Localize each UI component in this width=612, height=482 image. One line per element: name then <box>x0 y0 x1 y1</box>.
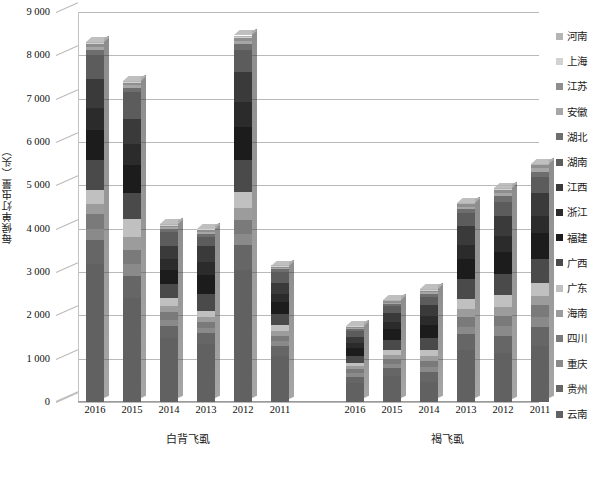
bar-segment[interactable] <box>531 317 549 327</box>
bar-segment[interactable] <box>86 214 104 229</box>
bar-segment[interactable] <box>383 376 401 402</box>
bar-segment[interactable] <box>494 202 512 217</box>
bar-segment[interactable] <box>160 284 178 298</box>
bar-segment[interactable] <box>457 299 475 309</box>
bar-segment[interactable] <box>234 192 252 208</box>
bar-segment[interactable] <box>123 119 141 145</box>
bar-segment[interactable] <box>123 264 141 275</box>
bar-segment[interactable] <box>494 216 512 236</box>
legend-item[interactable]: 福建 <box>556 230 587 246</box>
legend-item[interactable]: 上海 <box>556 53 587 69</box>
bar-segment[interactable] <box>457 279 475 299</box>
bar-segment[interactable] <box>494 295 512 307</box>
bar-segment[interactable] <box>197 275 215 293</box>
bar-segment[interactable] <box>457 226 475 244</box>
bar-segment[interactable] <box>197 262 215 275</box>
legend-item[interactable]: 四川 <box>556 330 587 346</box>
bar-segment[interactable] <box>457 334 475 350</box>
bar-segment[interactable] <box>271 283 289 293</box>
bar-segment[interactable] <box>420 305 438 316</box>
legend-item[interactable]: 安徽 <box>556 104 587 120</box>
bar-segment[interactable] <box>234 270 252 402</box>
bar-segment[interactable] <box>234 102 252 126</box>
bar-segment[interactable] <box>234 208 252 220</box>
bar-segment[interactable] <box>123 165 141 193</box>
bar-segment[interactable] <box>123 250 141 264</box>
bar-segment[interactable] <box>457 309 475 317</box>
legend-item[interactable]: 江西 <box>556 179 587 195</box>
bar-segment[interactable] <box>346 348 364 355</box>
bar-segment[interactable] <box>234 220 252 234</box>
bar-segment[interactable] <box>457 259 475 279</box>
bar-segment[interactable] <box>494 252 512 274</box>
legend-item[interactable]: 广西 <box>556 255 587 271</box>
bar-segment[interactable] <box>383 313 401 322</box>
bar-segment[interactable] <box>197 246 215 262</box>
bar-segment[interactable] <box>123 298 141 402</box>
bar-segment[interactable] <box>86 160 104 190</box>
bar-segment[interactable] <box>271 272 289 283</box>
bar-segment[interactable] <box>494 353 512 402</box>
bar-segment[interactable] <box>197 333 215 344</box>
legend-item[interactable]: 江苏 <box>556 78 587 94</box>
bar-segment[interactable] <box>123 92 141 119</box>
bar-segment[interactable] <box>234 72 252 102</box>
bar-segment[interactable] <box>271 302 289 314</box>
legend-item[interactable]: 云南 <box>556 406 587 422</box>
bar-segment[interactable] <box>86 130 104 160</box>
bar-segment[interactable] <box>234 234 252 245</box>
bar-segment[interactable] <box>494 316 512 327</box>
bar-segment[interactable] <box>86 229 104 240</box>
bar-segment[interactable] <box>86 79 104 107</box>
bar-segment[interactable] <box>420 338 438 350</box>
bar-segment[interactable] <box>420 325 438 338</box>
bar-segment[interactable] <box>457 213 475 226</box>
bar-segment[interactable] <box>86 108 104 131</box>
bar-segment[interactable] <box>160 326 178 338</box>
bar-segment[interactable] <box>494 326 512 335</box>
bar-segment[interactable] <box>494 336 512 353</box>
bar-segment[interactable] <box>420 382 438 402</box>
bar-segment[interactable] <box>123 276 141 299</box>
legend-item[interactable]: 浙江 <box>556 204 587 220</box>
bar-segment[interactable] <box>160 312 178 319</box>
bar-segment[interactable] <box>494 274 512 295</box>
bar-segment[interactable] <box>234 50 252 72</box>
bar-segment[interactable] <box>86 190 104 204</box>
legend-item[interactable]: 湖北 <box>556 129 587 145</box>
bar-segment[interactable] <box>383 368 401 376</box>
legend-item[interactable]: 河南 <box>556 28 587 44</box>
bar-segment[interactable] <box>123 193 141 219</box>
bar-segment[interactable] <box>271 314 289 325</box>
bar-segment[interactable] <box>123 219 141 238</box>
bar-segment[interactable] <box>160 246 178 259</box>
bar-segment[interactable] <box>420 316 438 325</box>
legend-item[interactable]: 海南 <box>556 305 587 321</box>
bar-segment[interactable] <box>531 327 549 346</box>
bar-segment[interactable] <box>346 383 364 402</box>
bar-segment[interactable] <box>457 327 475 335</box>
bar-segment[interactable] <box>346 356 364 363</box>
bar-segment[interactable] <box>160 270 178 284</box>
bar-segment[interactable] <box>123 144 141 164</box>
bar-segment[interactable] <box>383 329 401 339</box>
bar-segment[interactable] <box>160 298 178 306</box>
bar-segment[interactable] <box>531 193 549 216</box>
bar-segment[interactable] <box>123 237 141 250</box>
bar-segment[interactable] <box>197 344 215 402</box>
bar-segment[interactable] <box>457 317 475 327</box>
bar-segment[interactable] <box>271 346 289 356</box>
bar-segment[interactable] <box>531 259 549 283</box>
bar-segment[interactable] <box>383 322 401 329</box>
bar-segment[interactable] <box>531 283 549 296</box>
bar-segment[interactable] <box>86 204 104 214</box>
bar-segment[interactable] <box>531 177 549 193</box>
bar-segment[interactable] <box>457 350 475 402</box>
bar-segment[interactable] <box>160 232 178 246</box>
bar-segment[interactable] <box>197 294 215 311</box>
legend-item[interactable]: 贵州 <box>556 381 587 397</box>
bar-segment[interactable] <box>160 338 178 402</box>
bar-segment[interactable] <box>420 372 438 382</box>
bar-segment[interactable] <box>86 264 104 402</box>
bar-segment[interactable] <box>494 236 512 252</box>
